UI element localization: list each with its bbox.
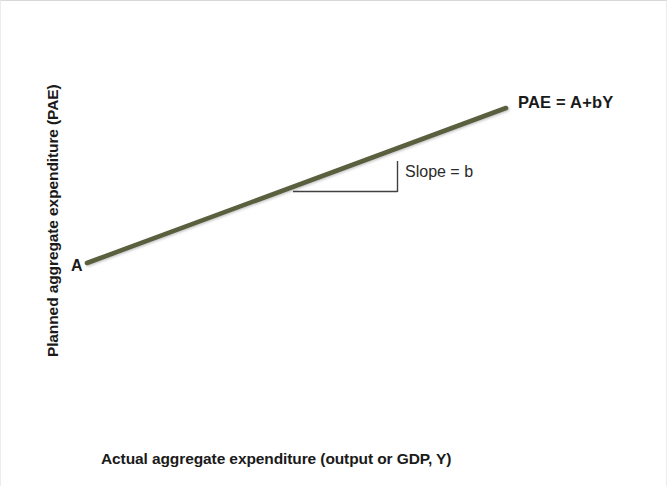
intercept-label-a: A: [71, 258, 83, 274]
chart-canvas: [1, 1, 667, 486]
expenditure-line-chart: Planned aggregate expenditure (PAE) Actu…: [0, 0, 667, 486]
x-axis-label: Actual aggregate expenditure (output or …: [101, 451, 451, 467]
slope-annotation-label: Slope = b: [405, 164, 473, 180]
pae-line: [87, 108, 506, 263]
y-axis-label: Planned aggregate expenditure (PAE): [45, 51, 61, 391]
pae-equation-label: PAE = A+bY: [518, 94, 614, 111]
